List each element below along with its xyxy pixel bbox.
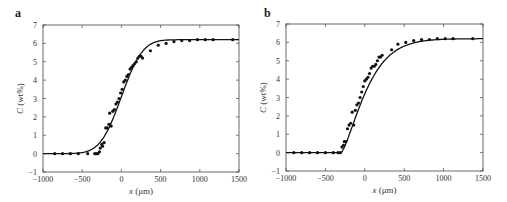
data-point [357, 101, 360, 104]
data-point [316, 151, 319, 154]
data-point [124, 79, 127, 82]
data-point [196, 38, 199, 41]
data-point [172, 40, 175, 43]
plot-frame [43, 25, 239, 172]
x-tick-label: −1000 [33, 175, 54, 184]
data-point [362, 85, 365, 88]
data-point [127, 73, 130, 76]
data-point [428, 38, 431, 41]
data-point [308, 151, 311, 154]
panel-b: b −101234567−1000−500050010001500x (μm)C… [253, 0, 506, 202]
x-axis-label: x (μm) [371, 185, 396, 195]
x-tick-label: 500 [155, 175, 167, 184]
data-point [101, 145, 104, 148]
data-point [332, 151, 335, 154]
data-point [116, 101, 119, 104]
y-tick-label: 7 [33, 21, 37, 30]
data-point [77, 152, 80, 155]
y-tick-label: 0 [276, 149, 280, 158]
data-point [349, 122, 352, 125]
x-tick-label: 1500 [475, 174, 491, 183]
data-point [180, 39, 183, 42]
data-point [231, 38, 234, 41]
chart-b: −101234567−1000−500050010001500x (μm)C (… [253, 0, 507, 202]
y-axis-label: C (wt%) [15, 83, 25, 114]
data-point [86, 152, 89, 155]
x-tick-label: 0 [363, 174, 367, 183]
data-point [324, 151, 327, 154]
data-point [113, 108, 116, 111]
x-tick-label: 1000 [436, 174, 452, 183]
data-point [119, 91, 122, 94]
plot-frame [286, 24, 483, 171]
x-axis-label: x (μm) [128, 186, 153, 196]
data-point [53, 152, 56, 155]
data-point [381, 54, 384, 57]
y-tick-label: 4 [276, 75, 280, 84]
data-point [69, 152, 72, 155]
y-tick-label: 0 [33, 150, 37, 159]
y-tick-label: 2 [33, 113, 37, 122]
y-tick-label: 2 [276, 112, 280, 121]
x-tick-label: 1000 [192, 175, 208, 184]
data-point [352, 123, 355, 126]
data-point [117, 97, 120, 100]
data-point [390, 48, 393, 51]
x-tick-label: −500 [74, 175, 91, 184]
data-point [376, 59, 379, 62]
y-tick-label: 1 [276, 130, 280, 139]
data-point [396, 43, 399, 46]
data-point [366, 76, 369, 79]
y-tick-label: 6 [276, 38, 280, 47]
x-tick-label: −1000 [276, 174, 297, 183]
y-tick-label: 1 [33, 131, 37, 140]
data-point [149, 49, 152, 52]
panel-label-b: b [264, 6, 271, 21]
data-point [121, 88, 124, 91]
data-point [360, 90, 363, 93]
data-point [108, 112, 111, 115]
y-tick-label: 5 [33, 58, 37, 67]
data-point [344, 140, 347, 143]
x-tick-label: 0 [119, 175, 123, 184]
y-axis-label: C (wt%) [258, 82, 268, 113]
data-point [342, 144, 345, 147]
y-tick-label: 6 [33, 39, 37, 48]
data-point [404, 41, 407, 44]
data-point [374, 63, 377, 66]
data-point [164, 42, 167, 45]
data-point [444, 37, 447, 40]
data-point [106, 126, 109, 129]
data-point [368, 72, 371, 75]
data-point [157, 44, 160, 47]
data-point [212, 38, 215, 41]
panel-label-a: a [15, 6, 21, 21]
panel-a: a −101234567−1000−500050010001500x (μm)C… [0, 0, 253, 202]
x-tick-label: 1500 [231, 175, 247, 184]
data-point [110, 124, 113, 127]
data-point [436, 37, 439, 40]
data-point [412, 39, 415, 42]
data-point [204, 38, 207, 41]
y-tick-label: 7 [276, 20, 280, 29]
data-point [98, 150, 101, 153]
y-tick-label: 3 [276, 94, 280, 103]
data-point [420, 38, 423, 41]
data-point [358, 96, 361, 99]
data-point [451, 37, 454, 40]
data-point [300, 151, 303, 154]
model-curve [286, 39, 483, 153]
data-point [188, 39, 191, 42]
x-tick-label: −500 [317, 174, 334, 183]
y-tick-label: 3 [33, 95, 37, 104]
x-tick-label: 500 [398, 174, 410, 183]
data-point [61, 152, 64, 155]
data-point [351, 111, 354, 114]
chart-a: −101234567−1000−500050010001500x (μm)C (… [0, 0, 253, 202]
data-point [292, 151, 295, 154]
data-point [346, 127, 349, 130]
data-point [103, 141, 106, 144]
data-point [471, 37, 474, 40]
y-tick-label: 5 [276, 57, 280, 66]
y-tick-label: 4 [33, 76, 37, 85]
